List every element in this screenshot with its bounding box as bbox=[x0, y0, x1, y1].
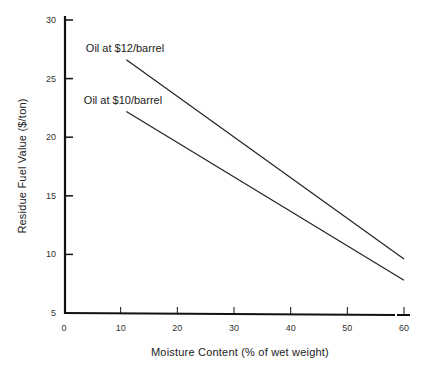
y-tick-label: 20 bbox=[46, 132, 56, 142]
series-label: Oil at $12/barrel bbox=[86, 42, 164, 54]
y-tick-label: 30 bbox=[46, 15, 56, 25]
x-ticks: 0102030405060 bbox=[61, 307, 409, 333]
x-tick-label: 30 bbox=[229, 323, 239, 333]
y-ticks: 51015202530 bbox=[46, 15, 73, 318]
y-tick-label: 5 bbox=[51, 308, 56, 318]
x-tick-label: 50 bbox=[342, 323, 352, 333]
y-tick-label: 10 bbox=[46, 249, 56, 259]
x-tick-label: 20 bbox=[172, 323, 182, 333]
y-tick-label: 15 bbox=[46, 191, 56, 201]
x-tick-label: 10 bbox=[116, 323, 126, 333]
y-axis-title: Residue Fuel Value ($/ton) bbox=[16, 98, 28, 233]
chart: 51015202530 0102030405060 Oil at $12/bar… bbox=[0, 0, 429, 374]
x-axis-line bbox=[64, 313, 395, 315]
axes: 51015202530 0102030405060 bbox=[46, 15, 410, 333]
x-tick-label: 40 bbox=[286, 323, 296, 333]
x-axis-title: Moisture Content (% of wet weight) bbox=[151, 346, 329, 358]
x-tick-label: 60 bbox=[399, 323, 409, 333]
y-tick-label: 25 bbox=[46, 74, 56, 84]
x-tick-label: 0 bbox=[61, 323, 66, 333]
series-line bbox=[126, 111, 404, 280]
series-label: Oil at $10/barrel bbox=[84, 94, 162, 106]
series-line bbox=[126, 60, 404, 259]
series-lines bbox=[126, 60, 404, 280]
series-labels: Oil at $12/barrelOil at $10/barrel bbox=[84, 42, 164, 106]
